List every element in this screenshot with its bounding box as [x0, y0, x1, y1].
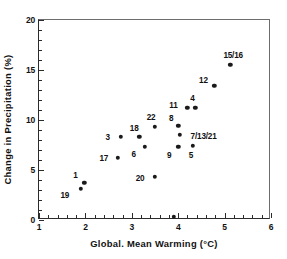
- y-tick-major: [39, 220, 44, 221]
- x-tick-minor: [243, 215, 244, 218]
- y-tick-label: 10: [26, 115, 35, 125]
- data-point: [153, 174, 157, 178]
- y-tick-minor: [39, 210, 42, 211]
- x-tick-major: [271, 213, 272, 218]
- y-tick-minor: [39, 180, 42, 181]
- x-axis-title: Global. Mean Warming (°C): [38, 238, 270, 249]
- y-tick-minor: [39, 30, 42, 31]
- data-point: [191, 144, 195, 148]
- data-point-label: 20: [136, 173, 145, 182]
- data-point: [228, 63, 232, 67]
- y-tick-major: [39, 170, 44, 171]
- x-tick-minor: [95, 215, 96, 218]
- x-tick-label: 3: [130, 222, 135, 232]
- x-tick-minor: [234, 215, 235, 218]
- data-point: [79, 187, 83, 191]
- x-tick-major: [85, 213, 86, 218]
- y-tick-minor: [39, 140, 42, 141]
- data-point-label: 15/16: [223, 51, 243, 60]
- data-point-label: 18: [130, 124, 139, 133]
- data-point-label: 22: [147, 113, 156, 122]
- x-tick-minor: [187, 215, 188, 218]
- data-point: [212, 84, 216, 88]
- y-tick-minor: [39, 40, 42, 41]
- y-tick-major: [39, 120, 44, 121]
- x-tick-minor: [197, 215, 198, 218]
- x-tick-major: [39, 213, 40, 218]
- y-tick-minor: [39, 80, 42, 81]
- data-point: [176, 124, 180, 128]
- data-point-label: 1: [73, 171, 77, 180]
- data-point-label: 11: [169, 100, 177, 109]
- x-tick-major: [178, 213, 179, 218]
- y-tick-minor: [39, 60, 42, 61]
- data-point-label: 19: [60, 191, 69, 200]
- y-tick-minor: [39, 150, 42, 151]
- data-point-label: 5: [189, 151, 193, 160]
- x-tick-minor: [215, 215, 216, 218]
- y-tick-major: [39, 20, 44, 21]
- x-tick-major: [225, 213, 226, 218]
- x-tick-minor: [113, 215, 114, 218]
- x-tick-minor: [150, 215, 151, 218]
- x-tick-label: 4: [176, 222, 181, 232]
- x-tick-minor: [48, 215, 49, 218]
- data-point-label: 4: [190, 93, 194, 102]
- data-point: [171, 215, 175, 219]
- data-point: [82, 181, 86, 185]
- y-tick-minor: [39, 110, 42, 111]
- y-tick-label: 20: [26, 15, 35, 25]
- x-tick-label: 5: [222, 222, 227, 232]
- y-tick-minor: [39, 190, 42, 191]
- y-axis-title: Change in Precipitation (%): [1, 19, 15, 219]
- data-point: [143, 145, 147, 149]
- data-point-label: 7/13/21: [191, 132, 217, 141]
- x-tick-minor: [262, 215, 263, 218]
- x-tick-minor: [76, 215, 77, 218]
- data-point: [116, 156, 120, 160]
- data-point-label: 12: [199, 76, 208, 85]
- y-tick-minor: [39, 90, 42, 91]
- plot-area: 05101520 123456 191173186222087/13/21911…: [38, 19, 270, 219]
- x-tick-major: [132, 213, 133, 218]
- y-tick-label: 5: [30, 165, 35, 175]
- data-point: [118, 135, 122, 139]
- x-tick-label: 1: [37, 222, 42, 232]
- y-tick-minor: [39, 50, 42, 51]
- x-tick-minor: [123, 215, 124, 218]
- x-tick-minor: [206, 215, 207, 218]
- x-tick-minor: [141, 215, 142, 218]
- y-tick-minor: [39, 200, 42, 201]
- x-tick-minor: [67, 215, 68, 218]
- scatter-chart-figure: Change in Precipitation (%) 05101520 123…: [0, 0, 287, 259]
- data-point: [137, 135, 141, 139]
- data-point: [153, 125, 157, 129]
- data-point: [185, 105, 189, 109]
- x-tick-minor: [169, 215, 170, 218]
- x-tick-label: 2: [83, 222, 88, 232]
- y-axis-title-text: Change in Precipitation (%): [3, 54, 14, 184]
- y-tick-label: 0: [30, 215, 35, 225]
- data-point-label: 3: [105, 133, 109, 142]
- data-point-label: 6: [132, 150, 136, 159]
- y-tick-major: [39, 70, 44, 71]
- x-tick-label: 6: [269, 222, 274, 232]
- y-tick-label: 15: [26, 65, 35, 75]
- data-point: [177, 133, 181, 137]
- data-point: [176, 144, 180, 148]
- y-tick-minor: [39, 100, 42, 101]
- y-tick-minor: [39, 160, 42, 161]
- y-tick-minor: [39, 130, 42, 131]
- x-tick-minor: [252, 215, 253, 218]
- x-tick-minor: [58, 215, 59, 218]
- data-point-label: 8: [169, 114, 173, 123]
- data-point-label: 17: [100, 154, 109, 163]
- x-tick-minor: [104, 215, 105, 218]
- data-point: [193, 105, 197, 109]
- data-point-label: 9: [167, 150, 171, 159]
- x-tick-minor: [160, 215, 161, 218]
